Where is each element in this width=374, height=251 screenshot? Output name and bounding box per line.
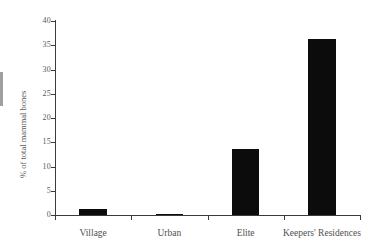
- bar: [79, 209, 106, 215]
- y-tick-label: 35: [43, 41, 51, 49]
- x-tick-mark: [131, 215, 132, 220]
- y-tick-mark: [51, 191, 56, 192]
- page-scan-artifact: [0, 72, 3, 106]
- y-tick-mark: [51, 167, 56, 168]
- y-tick-mark: [51, 118, 56, 119]
- y-tick-label: 15: [43, 138, 51, 146]
- x-tick-mark: [55, 215, 56, 220]
- y-tick-label: 10: [43, 163, 51, 171]
- y-tick-label: 20: [43, 114, 51, 122]
- x-tick-mark: [284, 215, 285, 220]
- y-axis-title: % of total mammal bones: [16, 60, 28, 180]
- y-tick-mark: [51, 45, 56, 46]
- y-tick-label: 40: [43, 17, 51, 25]
- y-tick-mark: [51, 142, 56, 143]
- x-tick-label: Urban: [158, 228, 182, 239]
- x-tick-label: Keepers' Residences: [283, 228, 361, 239]
- bar: [232, 149, 259, 215]
- bar: [156, 214, 183, 215]
- bar-chart: % of total mammal bones 0510152025303540…: [0, 0, 374, 251]
- x-tick-mark: [360, 215, 361, 220]
- x-tick-mark: [208, 215, 209, 220]
- x-tick-label: Elite: [237, 228, 255, 239]
- x-tick-label: Village: [79, 228, 106, 239]
- plot-area: 0510152025303540: [55, 21, 360, 215]
- y-tick-label: 0: [47, 211, 51, 219]
- y-axis-title-text: % of total mammal bones: [18, 166, 28, 178]
- y-tick-label: 5: [47, 187, 51, 195]
- y-tick-mark: [51, 94, 56, 95]
- y-tick-label: 25: [43, 90, 51, 98]
- bar: [308, 39, 335, 215]
- y-tick-mark: [51, 21, 56, 22]
- y-tick-label: 30: [43, 66, 51, 74]
- y-tick-mark: [51, 70, 56, 71]
